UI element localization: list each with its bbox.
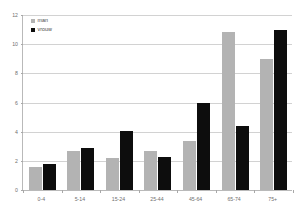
- bar-vrouw-0-4: [43, 164, 56, 190]
- bar-man-0-4: [29, 167, 42, 190]
- x-axis-tick-label: 0-4: [22, 197, 61, 202]
- bar-group: [139, 16, 178, 190]
- x-axis-tick-label: 75+: [253, 197, 292, 202]
- x-axis-tick-mark: [23, 190, 24, 193]
- plot-area: [22, 16, 292, 191]
- legend-swatch-man-icon: [31, 19, 35, 23]
- x-axis-tick-mark: [293, 190, 294, 193]
- bar-group: [100, 16, 139, 190]
- y-axis-tick-mark: [21, 161, 23, 162]
- bar-group: [23, 16, 62, 190]
- x-axis-tick-mark: [216, 190, 217, 193]
- bar-man-15-24: [106, 158, 119, 190]
- bars-layer: [23, 16, 292, 190]
- x-axis-tick-mark: [62, 190, 63, 193]
- chart-legend: man vrouw: [31, 17, 52, 35]
- bar-man-5-14: [67, 151, 80, 190]
- y-axis-tick-mark: [21, 15, 23, 16]
- y-axis-tick-label: 6: [2, 101, 18, 106]
- bar-vrouw-5-14: [81, 148, 94, 190]
- x-axis-tick-mark: [177, 190, 178, 193]
- x-axis-tick-label: 45-64: [176, 197, 215, 202]
- y-axis-tick-label: 10: [2, 42, 18, 47]
- bar-group: [177, 16, 216, 190]
- bar-man-25-44: [144, 151, 157, 190]
- bar-vrouw-45-64: [197, 103, 210, 190]
- bar-group: [216, 16, 255, 190]
- legend-item-man: man: [31, 17, 52, 25]
- bar-group: [62, 16, 101, 190]
- y-axis-tick-mark: [21, 44, 23, 45]
- legend-swatch-vrouw-icon: [31, 28, 35, 32]
- bar-vrouw-65-74: [236, 126, 249, 190]
- bar-man-45-64: [183, 141, 196, 190]
- x-axis-tick-label: 65-74: [215, 197, 254, 202]
- y-axis-tick-label: 2: [2, 159, 18, 164]
- x-axis-tick-mark: [254, 190, 255, 193]
- bar-vrouw-25-44: [158, 157, 171, 190]
- x-axis-tick-label: 5-14: [61, 197, 100, 202]
- y-axis-tick-mark: [21, 73, 23, 74]
- y-axis-tick-label: 4: [2, 130, 18, 135]
- legend-label-vrouw: vrouw: [38, 27, 52, 32]
- bar-vrouw-75+: [274, 30, 287, 190]
- y-axis-tick-label: 0: [2, 188, 18, 193]
- y-axis-tick-mark: [21, 132, 23, 133]
- x-axis-tick-label: 15-24: [99, 197, 138, 202]
- x-axis-tick-mark: [100, 190, 101, 193]
- bar-man-75+: [260, 59, 273, 190]
- y-axis-tick-mark: [21, 103, 23, 104]
- bar-man-65-74: [222, 32, 235, 190]
- y-axis-tick-label: 8: [2, 71, 18, 76]
- bar-chart: 024681012 0-45-1415-2425-4445-6465-7475+…: [0, 0, 299, 213]
- x-axis-tick-label: 25-44: [138, 197, 177, 202]
- bar-vrouw-15-24: [120, 131, 133, 190]
- y-axis-tick-label: 12: [2, 13, 18, 18]
- legend-label-man: man: [38, 18, 49, 23]
- bar-group: [254, 16, 293, 190]
- legend-item-vrouw: vrouw: [31, 26, 52, 34]
- x-axis-tick-mark: [139, 190, 140, 193]
